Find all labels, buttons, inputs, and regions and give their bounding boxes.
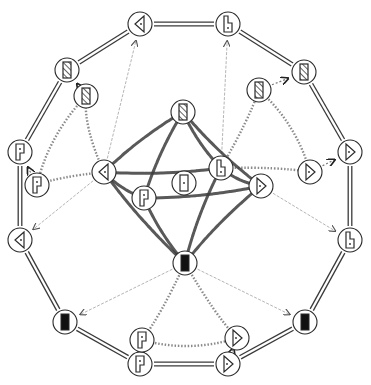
hatched-rect-icon [63,62,71,78]
hatched-rect-icon [300,64,308,80]
black-rect-icon [301,314,309,330]
double-edge [310,251,342,308]
arrow-edge [272,78,288,84]
node-triangle-right [216,352,240,376]
hatched-rect-icon [82,88,90,104]
double-edge [28,251,60,308]
node-hatched-rect [292,60,316,84]
dotted-edge [221,168,310,172]
node-triangle-left [92,160,116,184]
node-triangle-left [8,228,32,252]
node-circle [338,140,362,164]
node-hatched-rect [55,58,79,82]
diagram-svg [0,0,371,385]
dotted-edge [142,338,237,346]
node-p-shape [130,328,154,352]
node-p-shape [8,140,32,164]
node-hatched-rect [74,84,98,108]
arrow-edge [198,269,290,314]
double-edge [29,83,62,141]
hatched-rect-icon [179,104,187,120]
node-black-rect [293,310,317,334]
double-edge [80,33,129,64]
dotted-edge [37,96,86,185]
node-circle [225,326,249,350]
node-p-shape [128,352,152,376]
dotted-edge [259,90,310,172]
node-circle [298,160,322,184]
arrow-edge [107,41,136,159]
double-edge [78,30,127,61]
black-rect-icon [61,314,69,330]
double-edge [313,253,345,310]
thick-edge [144,186,261,198]
double-edge [78,327,129,355]
nodes [8,12,362,376]
double-edge [313,83,345,139]
double-edge [239,33,291,66]
arrow-edge [77,84,78,85]
node-b-shape [209,156,233,180]
double-edge [25,81,58,139]
node-triangle-left [128,12,152,36]
black-rect-icon [181,255,189,271]
node-circle [92,160,116,184]
arrow-edge [80,269,172,314]
node-p-shape [25,173,49,197]
thick-edge [104,168,221,173]
arrow-edge [323,160,335,166]
diagram-canvas [0,0,371,385]
node-triangle-right [298,160,322,184]
node-circle [249,174,273,198]
hatched-rect-icon [255,82,263,98]
node-b-shape [216,12,240,36]
node-circle [216,352,240,376]
node-door-rect [172,171,196,195]
node-triangle-right [249,174,273,198]
arrow-edge [273,193,335,231]
node-circle [8,228,32,252]
double-edge [25,253,57,310]
node-circle [128,12,152,36]
dotted-edge [142,263,185,340]
node-black-rect [53,310,77,334]
arrow-edge [28,167,31,172]
arrow-edge [222,41,227,154]
node-b-shape [338,228,362,252]
dotted-edge [185,263,237,338]
node-p-shape [132,186,156,210]
node-hatched-rect [247,78,271,102]
double-edge [309,85,341,141]
node-black-rect [173,251,197,275]
node-triangle-right [338,140,362,164]
node-triangle-right [225,326,249,350]
double-edge [76,330,127,358]
node-hatched-rect [171,100,195,124]
thick-edge [104,112,183,172]
double-edge [241,30,293,63]
